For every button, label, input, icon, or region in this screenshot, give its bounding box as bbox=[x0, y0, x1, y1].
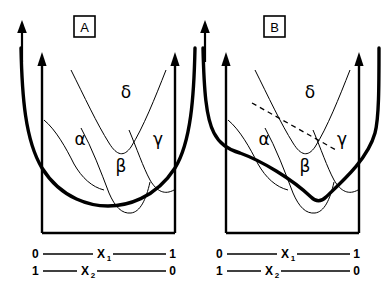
envelope-curve-a bbox=[21, 48, 195, 206]
axis-x2-b-var: X bbox=[265, 264, 273, 278]
label-gamma-b: γ bbox=[337, 129, 347, 149]
label-alpha-b: α bbox=[258, 129, 269, 149]
axis-x2-a-right: 0 bbox=[169, 264, 176, 278]
panel-tag-a-text: A bbox=[80, 20, 89, 35]
label-delta-a: δ bbox=[121, 82, 131, 102]
label-beta-b: β bbox=[300, 156, 311, 176]
free-energy-axis-box-left-B bbox=[221, 52, 230, 66]
axis-x1-b-right: 1 bbox=[353, 247, 360, 261]
label-delta-b: δ bbox=[305, 82, 315, 102]
panel-a: A δ α β γ 0 X 1 1 1 X 2 bbox=[17, 16, 195, 280]
panel-tag-b-text: B bbox=[270, 20, 279, 35]
figure-svg: A δ α β γ 0 X 1 1 1 X 2 bbox=[0, 0, 383, 288]
axis-x2-a: 1 X 2 0 bbox=[32, 264, 176, 280]
axis-x1-b: 0 X 1 1 bbox=[216, 247, 360, 263]
axis-x2-a-var: X bbox=[81, 264, 89, 278]
figure-container: A δ α β γ 0 X 1 1 1 X 2 bbox=[0, 0, 383, 288]
panel-tag-b: B bbox=[264, 16, 285, 37]
axis-x1-a-sub: 1 bbox=[107, 254, 112, 263]
label-beta-a: β bbox=[116, 156, 127, 176]
axis-x2-b-right: 0 bbox=[353, 264, 360, 278]
axis-x2-b: 1 X 2 0 bbox=[216, 264, 360, 280]
axis-x1-a-right: 1 bbox=[169, 247, 176, 261]
free-energy-axis-box-right-A bbox=[170, 52, 179, 66]
axis-x2-b-left: 1 bbox=[216, 264, 223, 278]
axis-x1-b-sub: 1 bbox=[291, 254, 296, 263]
free-energy-axis-box-left-A bbox=[37, 52, 46, 66]
axis-x1-b-var: X bbox=[281, 247, 289, 261]
label-gamma-a: γ bbox=[153, 129, 163, 149]
axis-x2-a-left: 1 bbox=[32, 264, 39, 278]
axis-x2-a-sub: 2 bbox=[91, 271, 96, 280]
envelope-curve-b bbox=[203, 48, 379, 201]
axis-x1-a-var: X bbox=[97, 247, 105, 261]
label-alpha-a: α bbox=[74, 129, 85, 149]
axis-x1-a: 0 X 1 1 bbox=[32, 247, 176, 263]
axis-x1-b-left: 0 bbox=[216, 247, 223, 261]
axis-x2-b-sub: 2 bbox=[275, 271, 280, 280]
panel-tag-a: A bbox=[74, 16, 95, 37]
panel-b: B δ α β γ 0 X 1 1 1 X 2 bbox=[200, 16, 379, 280]
axis-x1-a-left: 0 bbox=[32, 247, 39, 261]
free-energy-axis-box-right-B bbox=[354, 52, 363, 66]
